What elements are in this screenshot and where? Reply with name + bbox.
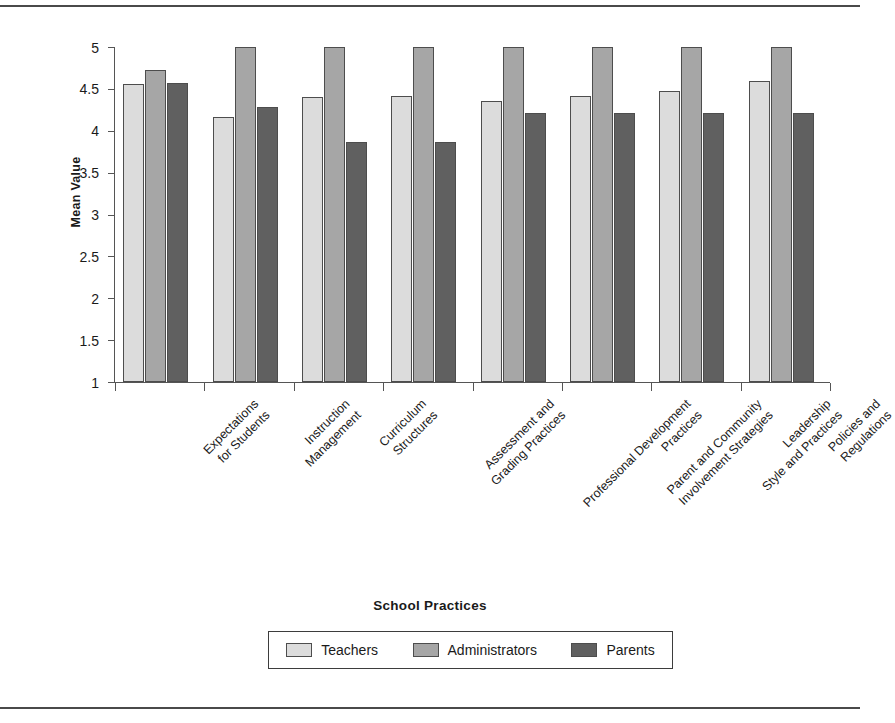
legend-swatch-icon	[571, 643, 597, 657]
bar-teachers-5	[570, 96, 591, 382]
bar-group	[562, 47, 651, 382]
y-tick-label: 2	[91, 292, 108, 306]
bar-parents-1	[257, 107, 278, 382]
x-tick	[562, 383, 563, 391]
x-tick	[830, 383, 831, 391]
bar-group	[294, 47, 383, 382]
bar-administrators-3	[413, 47, 434, 382]
y-tick-label: 3.5	[80, 166, 108, 180]
legend-item-parents[interactable]: Parents	[571, 642, 654, 658]
bar-parents-4	[525, 113, 546, 382]
chart-legend: TeachersAdministratorsParents	[268, 631, 673, 669]
y-tick-label: 4	[91, 124, 108, 138]
bar-teachers-1	[213, 117, 234, 382]
bar-teachers-0	[123, 84, 144, 382]
legend-item-teachers[interactable]: Teachers	[286, 642, 378, 658]
y-tick: 3	[108, 215, 115, 216]
plot-area	[115, 47, 830, 382]
bar-administrators-1	[235, 47, 256, 382]
bar-group	[115, 47, 204, 382]
legend-label: Teachers	[321, 642, 378, 658]
x-axis-title: School Practices	[0, 598, 860, 613]
legend-swatch-icon	[286, 643, 312, 657]
bar-teachers-7	[749, 81, 770, 383]
bar-group	[741, 47, 830, 382]
y-tick: 1.5	[108, 340, 115, 341]
y-tick-label: 2.5	[80, 250, 108, 264]
x-tick	[741, 383, 742, 391]
y-tick: 4	[108, 131, 115, 132]
bar-parents-3	[435, 142, 456, 382]
bar-group	[204, 47, 293, 382]
legend-label: Parents	[606, 642, 654, 658]
x-tick	[383, 383, 384, 391]
category-label-1: InstructionManagement	[290, 396, 364, 470]
bar-administrators-0	[145, 70, 166, 382]
x-tick	[204, 383, 205, 391]
bar-group	[473, 47, 562, 382]
x-tick	[651, 383, 652, 391]
legend-swatch-icon	[413, 643, 439, 657]
y-tick: 1	[108, 382, 115, 383]
bar-group	[651, 47, 740, 382]
y-tick: 3.5	[108, 173, 115, 174]
bar-parents-2	[346, 142, 367, 382]
x-tick	[115, 383, 116, 391]
category-label-2: CurriculumStructures	[376, 396, 441, 461]
legend-label: Administrators	[448, 642, 537, 658]
y-tick-label: 4.5	[80, 82, 108, 96]
y-tick-label: 1	[91, 376, 108, 390]
bar-parents-5	[614, 113, 635, 382]
category-label-3: Assessment andGrading Practices	[477, 396, 570, 489]
y-tick-label: 5	[91, 41, 108, 55]
bar-group	[383, 47, 472, 382]
bar-parents-0	[167, 83, 188, 382]
y-tick: 4.5	[108, 89, 115, 90]
category-label-0: Expectationsfor Students	[200, 396, 273, 469]
bar-parents-7	[793, 113, 814, 382]
bar-administrators-2	[324, 47, 345, 382]
y-tick-label: 1.5	[80, 334, 108, 348]
bar-administrators-5	[592, 47, 613, 382]
bar-administrators-7	[771, 47, 792, 382]
bar-teachers-6	[659, 91, 680, 382]
y-tick: 2	[108, 298, 115, 299]
y-tick: 2.5	[108, 256, 115, 257]
bar-administrators-6	[681, 47, 702, 382]
x-tick	[473, 383, 474, 391]
bar-teachers-2	[302, 97, 323, 382]
bar-parents-6	[703, 113, 724, 382]
y-tick: 5	[108, 47, 115, 48]
x-tick	[294, 383, 295, 391]
bar-administrators-4	[503, 47, 524, 382]
bar-teachers-3	[391, 96, 412, 382]
category-label-7: Policies andRegulations	[825, 396, 895, 466]
legend-item-administrators[interactable]: Administrators	[413, 642, 537, 658]
y-tick-label: 3	[91, 208, 108, 222]
bar-teachers-4	[481, 101, 502, 382]
